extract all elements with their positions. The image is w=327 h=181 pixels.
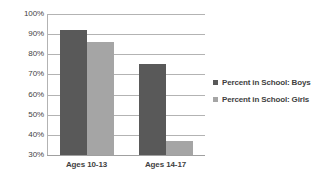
x-axis-tick-labels: Ages 10-13Ages 14-17	[47, 160, 205, 174]
bar[interactable]	[139, 64, 166, 155]
x-axis-tick-label: Ages 10-13	[47, 160, 126, 170]
bar-group	[139, 14, 193, 155]
bar-chart: 100%90%80%70%60%50%40%30% Ages 10-13Ages…	[0, 0, 327, 181]
x-axis-tick-label: Ages 14-17	[126, 160, 205, 170]
legend-swatch-boys-icon	[213, 80, 218, 85]
bar[interactable]	[60, 30, 87, 155]
y-axis-tick-label: 70%	[2, 70, 44, 78]
y-axis-tick-label: 40%	[2, 131, 44, 139]
legend-item[interactable]: Percent in School: Boys	[213, 76, 325, 89]
plot-area	[47, 14, 205, 155]
legend-label-girls: Percent in School: Girls	[222, 95, 309, 104]
y-axis-tick-label: 30%	[2, 151, 44, 159]
bar[interactable]	[87, 42, 114, 155]
legend-label-boys: Percent in School: Boys	[222, 78, 311, 87]
y-axis-tick-label: 50%	[2, 111, 44, 119]
gridline	[47, 155, 205, 156]
legend-item[interactable]: Percent in School: Girls	[213, 93, 325, 106]
y-axis-tick-label: 60%	[2, 91, 44, 99]
y-axis-tick-label: 100%	[2, 10, 44, 18]
legend-swatch-girls-icon	[213, 97, 218, 102]
bar-group	[60, 14, 114, 155]
y-axis-tick-labels: 100%90%80%70%60%50%40%30%	[0, 14, 44, 155]
y-axis-tick-label: 80%	[2, 50, 44, 58]
chart-legend: Percent in School: Boys Percent in Schoo…	[213, 76, 325, 110]
bar[interactable]	[166, 141, 193, 155]
y-axis-tick-label: 90%	[2, 30, 44, 38]
